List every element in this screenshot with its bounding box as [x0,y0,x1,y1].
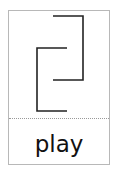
dotted-divider [9,118,109,119]
card-word-label: play [9,131,109,157]
play-glyph-icon [9,11,111,116]
word-card[interactable]: play [8,10,110,165]
